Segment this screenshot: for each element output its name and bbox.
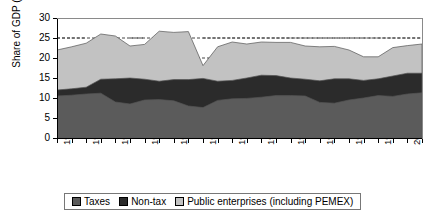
stacked-area-series: [57, 18, 422, 138]
y-axis-title: Share of GDP (%): [11, 0, 22, 88]
x-tick-mark: [130, 139, 131, 143]
legend-label: Taxes: [84, 196, 110, 207]
chart-figure: Share of GDP (%) 302520151050 1977197919…: [0, 0, 432, 222]
y-tick-label: 0: [28, 132, 50, 143]
x-tick-mark: [174, 139, 175, 143]
legend-item: Non-tax: [119, 196, 166, 207]
x-tick-mark: [188, 139, 189, 143]
y-tick-label: 25: [28, 32, 50, 43]
plot-area: [57, 18, 422, 138]
x-tick-mark: [349, 139, 350, 143]
legend-label: Public enterprises (including PEMEX): [187, 196, 353, 207]
legend-swatch-icon: [119, 197, 128, 206]
axis-left-spine: [57, 18, 58, 139]
legend-swatch-icon: [72, 197, 81, 206]
axis-bottom-spine: [57, 138, 423, 139]
y-tick-label: 10: [28, 92, 50, 103]
y-tick-label: 30: [28, 12, 50, 23]
x-tick-mark: [334, 139, 335, 143]
x-tick-mark: [291, 139, 292, 143]
x-tick-mark: [378, 139, 379, 143]
legend-item: Taxes: [72, 196, 110, 207]
x-tick-mark: [218, 139, 219, 143]
x-tick-mark: [115, 139, 116, 143]
axis-top-spine: [57, 18, 423, 19]
x-tick-mark: [72, 139, 73, 143]
area-band: [57, 93, 422, 138]
x-tick-mark: [86, 139, 87, 143]
x-tick-mark: [364, 139, 365, 143]
x-tick-mark: [145, 139, 146, 143]
x-tick-mark: [261, 139, 262, 143]
x-tick-mark: [247, 139, 248, 143]
x-tick-mark: [101, 139, 102, 143]
chart-legend: TaxesNon-taxPublic enterprises (includin…: [64, 193, 361, 210]
x-tick-mark: [159, 139, 160, 143]
legend-swatch-icon: [175, 197, 184, 206]
x-tick-mark: [422, 139, 423, 143]
x-tick-mark: [305, 139, 306, 143]
y-tick-label: 15: [28, 72, 50, 83]
axis-right-spine: [422, 18, 423, 139]
x-tick-mark: [57, 139, 58, 143]
x-tick-mark: [276, 139, 277, 143]
x-tick-mark: [232, 139, 233, 143]
legend-item: Public enterprises (including PEMEX): [175, 196, 353, 207]
x-tick-mark: [393, 139, 394, 143]
y-tick-label: 5: [28, 112, 50, 123]
x-tick-mark: [203, 139, 204, 143]
legend-label: Non-tax: [131, 196, 166, 207]
x-tick-mark: [407, 139, 408, 143]
y-tick-label: 20: [28, 52, 50, 63]
x-tick-mark: [320, 139, 321, 143]
